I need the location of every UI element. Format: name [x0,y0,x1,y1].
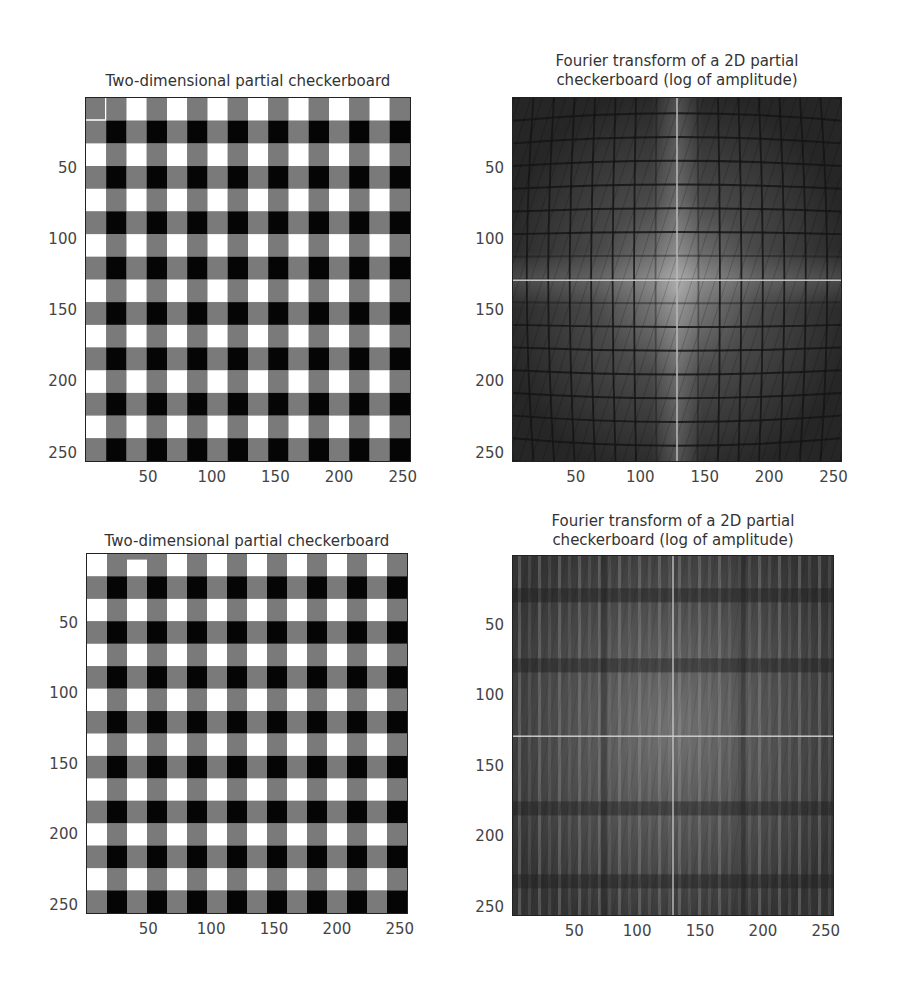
x-tick-label: 200 [747,468,791,486]
chart-title: Two-dimensional partial checkerboard [85,72,411,91]
y-tick-label: 250 [460,444,504,462]
y-tick-label: 250 [34,896,78,914]
x-tick-label: 100 [190,468,234,486]
y-tick-label: 100 [460,230,504,248]
x-tick-label: 50 [554,468,598,486]
x-tick-label: 50 [126,468,170,486]
x-tick-label: 250 [378,920,422,938]
y-tick-label: 100 [34,684,78,702]
x-tick-label: 250 [381,468,425,486]
chart-title: Two-dimensional partial checkerboard [86,532,408,551]
y-tick-label: 100 [460,686,504,704]
x-tick-label: 200 [317,468,361,486]
y-tick-label: 50 [33,159,77,177]
y-tick-label: 200 [33,372,77,390]
y-tick-label: 50 [460,616,504,634]
chart-title: Fourier transform of a 2D partial checke… [512,512,834,550]
y-tick-label: 150 [33,301,77,319]
x-tick-label: 150 [683,468,727,486]
y-tick-label: 250 [460,898,504,916]
y-tick-label: 200 [34,825,78,843]
checkerboard-image [85,97,411,462]
y-tick-label: 250 [33,444,77,462]
x-tick-label: 100 [615,922,659,940]
x-tick-label: 250 [804,922,848,940]
y-tick-label: 150 [34,755,78,773]
x-tick-label: 150 [252,920,296,938]
y-tick-label: 200 [460,827,504,845]
y-tick-label: 50 [460,159,504,177]
checkerboard-image [86,553,408,914]
x-tick-label: 50 [126,920,170,938]
y-tick-label: 150 [460,757,504,775]
fft-image [512,97,842,462]
y-tick-label: 50 [34,614,78,632]
x-tick-label: 100 [189,920,233,938]
x-tick-label: 150 [678,922,722,940]
fft-image [512,555,834,916]
x-tick-label: 200 [315,920,359,938]
x-tick-label: 200 [741,922,785,940]
chart-title: Fourier transform of a 2D partial checke… [512,52,842,90]
x-tick-label: 50 [552,922,596,940]
y-tick-label: 100 [33,230,77,248]
y-tick-label: 150 [460,301,504,319]
x-tick-label: 250 [812,468,856,486]
x-tick-label: 150 [253,468,297,486]
x-tick-label: 100 [618,468,662,486]
y-tick-label: 200 [460,372,504,390]
